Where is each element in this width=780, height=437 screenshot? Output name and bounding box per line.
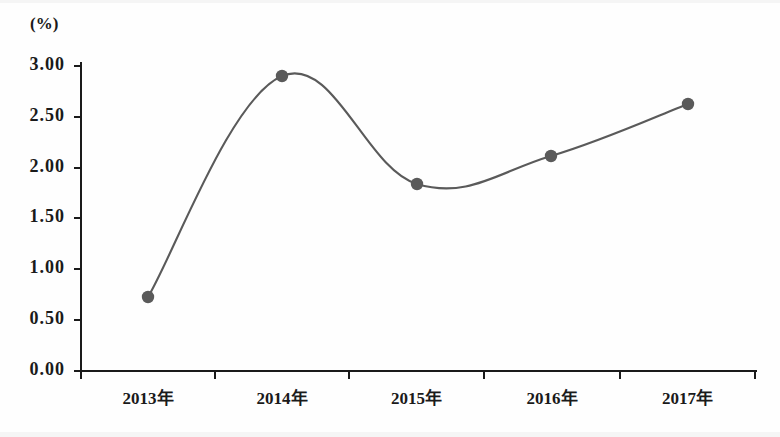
y-axis-tick-label: 1.00	[3, 257, 65, 278]
y-axis-tick-label: 3.00	[3, 54, 65, 75]
axis-lines	[81, 62, 757, 371]
data-point-markers: 2013年: 0.732014年: 2.852015年: 1.832016年: …	[142, 70, 694, 303]
y-axis-tick-label: 0.00	[3, 359, 65, 380]
data-point-marker: 2016年: 2.10	[545, 150, 557, 162]
data-point-marker: 2014年: 2.85	[276, 70, 288, 82]
x-axis-ticks	[81, 371, 755, 379]
chart-canvas: 2013年: 0.732014年: 2.852015年: 1.832016年: …	[0, 0, 780, 437]
x-axis-tick-label: 2014年	[222, 384, 342, 409]
y-axis-tick-label: 2.00	[3, 156, 65, 177]
data-point-marker: 2015年: 1.83	[411, 178, 423, 190]
y-axis-tick-label: 2.50	[3, 105, 65, 126]
y-axis-ticks	[74, 66, 81, 371]
line-chart: (%) 2013年: 0.732014年: 2.852015年: 1.83201…	[0, 0, 780, 437]
x-axis-tick-label: 2015年	[357, 384, 477, 409]
x-axis-tick-label: 2017年	[628, 384, 748, 409]
x-axis-tick-label: 2016年	[492, 384, 612, 409]
data-point-marker: 2017年: 2.58	[682, 98, 694, 110]
x-axis-tick-label: 2013年	[88, 384, 208, 409]
y-axis-tick-label: 0.50	[3, 308, 65, 329]
y-axis-tick-label: 1.50	[3, 206, 65, 227]
data-point-marker: 2013年: 0.73	[142, 291, 154, 303]
